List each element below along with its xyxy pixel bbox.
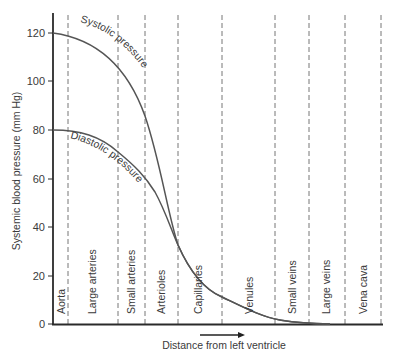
segment-large-veins: Large veins: [320, 260, 332, 314]
segment-small-arteries: Small arteries: [125, 250, 137, 314]
axes: [52, 13, 383, 325]
segment-vena-cava: Vena cava: [357, 265, 369, 314]
segment-arterioles: Arterioles: [155, 270, 167, 314]
y-axis-title: Systemic blood pressure (mm Hg): [10, 92, 22, 251]
segment-capillaries: Capillaries: [192, 265, 204, 314]
segment-dividers: [68, 15, 381, 324]
systolic-label: Systolic pressure: [79, 12, 151, 69]
y-tick-labels: 0 20 40 60 80 100 120: [27, 27, 45, 330]
tick-40: 40: [33, 221, 45, 233]
x-axis-title: Distance from left ventricle: [162, 339, 286, 351]
tick-20: 20: [33, 270, 45, 282]
tick-120: 120: [27, 27, 45, 39]
blood-pressure-chart: 0 20 40 60 80 100 120 Systemic blood pre…: [0, 0, 403, 352]
segment-small-veins: Small veins: [286, 260, 298, 314]
segment-labels: Aorta Large arteries Small arteries Arte…: [55, 249, 369, 314]
tick-100: 100: [27, 75, 45, 87]
segment-aorta: Aorta: [55, 289, 67, 314]
tick-0: 0: [39, 318, 45, 330]
direction-arrow-icon: [200, 332, 245, 338]
segment-large-arteries: Large arteries: [86, 249, 98, 314]
tick-60: 60: [33, 173, 45, 185]
diastolic-label: Diastolic pressure: [69, 128, 146, 184]
segment-venules: Venules: [243, 277, 255, 314]
tick-80: 80: [33, 124, 45, 136]
